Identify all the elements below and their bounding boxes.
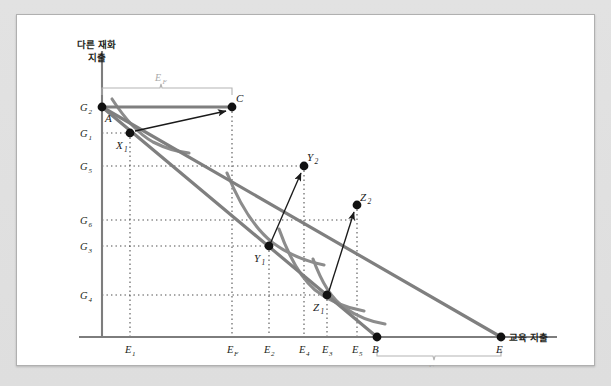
y-tick-G5-sub: 5: [89, 167, 93, 175]
budget-line-outer: [102, 107, 501, 337]
y-axis-title-line1: 다른 재화: [77, 39, 116, 50]
x-tick-E5: E: [351, 344, 359, 355]
arrow-x1-to-c: [135, 111, 226, 131]
x-tick-E4: E: [298, 344, 306, 355]
point-label-Z1-sub: 1: [321, 307, 325, 316]
figure-panel: E F E F: [16, 14, 595, 366]
bottom-bracket: [377, 349, 501, 360]
x-tick-E2-sub: 2: [271, 350, 275, 358]
x-tick-E2: E: [263, 344, 271, 355]
y-tick-G2: G: [80, 102, 88, 113]
point-label-X1: X: [115, 139, 124, 151]
x-axis-title: 교육 지출: [509, 332, 548, 343]
y-tick-labels: G 2 G 1 G 5 G 6 G 3 G 4: [80, 102, 93, 304]
point-label-A: A: [104, 112, 112, 124]
dot-B: [373, 333, 382, 342]
point-label-B: B: [372, 343, 379, 355]
bottom-bracket-label: E: [427, 363, 434, 367]
x-tick-E1: E: [124, 344, 132, 355]
y-axis-title-line2: 지출: [88, 52, 106, 63]
top-bracket-label-sub: F: [162, 78, 168, 86]
figure-outer-frame: E F E F: [0, 0, 611, 386]
top-bracket: [102, 84, 232, 95]
x-tick-E1-sub: 1: [132, 350, 136, 358]
point-label-Y2-sub: 2: [315, 157, 319, 166]
y-tick-G5: G: [80, 161, 88, 172]
y-tick-G4-sub: 4: [89, 296, 93, 304]
dot-X1: [126, 129, 135, 138]
point-label-Z2-sub: 2: [368, 197, 372, 206]
y-tick-G2-sub: 2: [89, 108, 93, 116]
y-tick-G1: G: [80, 128, 88, 139]
top-bracket-label: E: [154, 72, 161, 83]
dot-E: [497, 333, 506, 342]
point-label-E: E: [495, 343, 503, 355]
y-tick-G4: G: [80, 290, 88, 301]
point-label-Y1-sub: 1: [262, 258, 266, 267]
x-tick-E3-sub: 3: [328, 350, 333, 358]
point-label-Z2: Z: [360, 191, 367, 203]
x-tick-E4-sub: 4: [306, 350, 310, 358]
x-tick-labels: E 1 E F E 2 E 4 E 3 E 5: [124, 344, 363, 358]
x-tick-EF-sub: F: [233, 350, 239, 358]
point-label-X1-sub: 1: [124, 145, 128, 154]
x-tick-EF: E: [226, 344, 234, 355]
economics-indifference-curve-diagram: E F E F: [17, 15, 596, 367]
dot-Z1: [323, 291, 332, 300]
point-label-C: C: [236, 92, 244, 104]
x-tick-E5-sub: 5: [359, 350, 363, 358]
y-tick-G1-sub: 1: [89, 134, 93, 142]
y-tick-G6-sub: 6: [89, 221, 93, 229]
budget-lines: [102, 107, 501, 337]
y-tick-G3-sub: 3: [88, 247, 93, 255]
dot-Y1: [265, 242, 274, 251]
indifference-curve-3: [279, 229, 364, 311]
point-label-Z1: Z: [313, 301, 320, 313]
x-tick-E3: E: [321, 344, 329, 355]
dot-A: [98, 103, 107, 112]
y-tick-G3: G: [80, 241, 88, 252]
indifference-curves: [112, 99, 385, 324]
budget-line-inner: [102, 107, 377, 337]
y-tick-G6: G: [80, 215, 88, 226]
